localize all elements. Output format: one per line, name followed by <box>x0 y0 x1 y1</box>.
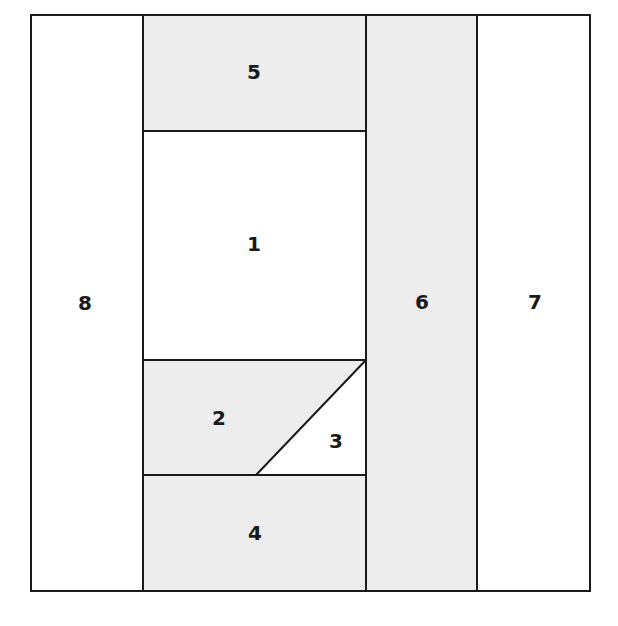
regions-layer <box>31 15 590 591</box>
region-6-label: 6 <box>415 290 429 314</box>
region-1-label: 1 <box>247 232 261 256</box>
diagram-canvas: 12345678 <box>0 0 618 626</box>
region-2-label: 2 <box>212 406 226 430</box>
region-8-label: 8 <box>78 291 92 315</box>
region-3-label: 3 <box>329 429 343 453</box>
region-4-label: 4 <box>248 521 262 545</box>
region-5-label: 5 <box>247 60 261 84</box>
partitioned-rectangle-diagram: 12345678 <box>0 0 618 626</box>
region-7-label: 7 <box>528 290 542 314</box>
